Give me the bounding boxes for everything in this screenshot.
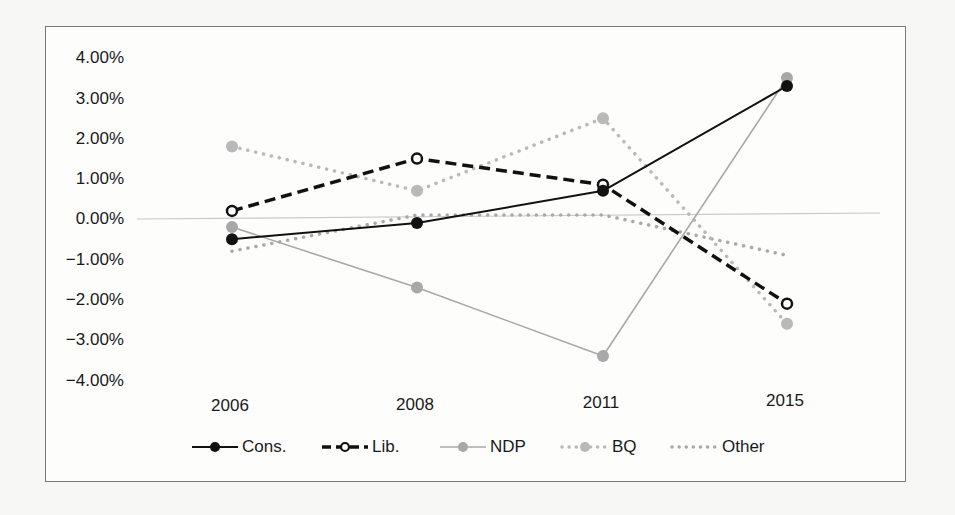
legend-marker (580, 442, 590, 452)
data-point-marker (411, 185, 423, 197)
x-axis: 2006200820112015 (211, 391, 804, 415)
data-point-marker (597, 350, 609, 362)
legend-item-bq: BQ (562, 437, 637, 456)
legend-label: Other (722, 437, 765, 456)
legend-label: BQ (612, 437, 637, 456)
y-tick-label: 2.00% (76, 129, 124, 148)
legend-marker (458, 442, 468, 452)
data-point-marker (781, 80, 793, 92)
y-tick-label: 4.00% (76, 48, 124, 67)
data-point-marker (227, 206, 237, 216)
x-tick-label: 2015 (766, 391, 804, 410)
y-tick-label: −1.00% (66, 250, 124, 269)
legend-item-cons: Cons. (192, 437, 286, 456)
data-point-marker (411, 282, 423, 294)
legend-label: Lib. (372, 437, 399, 456)
series-lib (227, 154, 792, 309)
y-tick-label: −3.00% (66, 330, 124, 349)
data-point-marker (412, 154, 422, 164)
legend-marker (341, 443, 349, 451)
x-tick-label: 2006 (211, 396, 249, 415)
data-point-marker (597, 112, 609, 124)
data-point-marker (781, 318, 793, 330)
data-point-marker (226, 140, 238, 152)
y-tick-label: −4.00% (66, 371, 124, 390)
legend-item-other: Other (672, 437, 765, 456)
y-tick-label: 0.00% (76, 209, 124, 228)
data-point-marker (226, 221, 238, 233)
data-point-marker (411, 217, 423, 229)
data-point-marker (226, 233, 238, 245)
legend-item-lib: Lib. (322, 437, 399, 456)
y-tick-label: −2.00% (66, 290, 124, 309)
y-axis: 4.00%3.00%2.00%1.00%0.00%−1.00%−2.00%−3.… (66, 48, 124, 389)
line-chart: 4.00%3.00%2.00%1.00%0.00%−1.00%−2.00%−3.… (0, 0, 955, 515)
legend-marker (210, 442, 220, 452)
series-cons (226, 80, 793, 245)
legend-label: NDP (490, 437, 526, 456)
zero-baseline (137, 213, 880, 219)
series-layer (226, 72, 793, 362)
series-ndp (226, 72, 793, 362)
legend-label: Cons. (242, 437, 286, 456)
legend-item-ndp: NDP (440, 437, 526, 456)
series-line (232, 118, 787, 323)
x-tick-label: 2008 (396, 395, 434, 414)
data-point-marker (782, 299, 792, 309)
x-tick-label: 2011 (583, 393, 620, 412)
series-bq (226, 112, 793, 330)
y-tick-label: 3.00% (76, 89, 124, 108)
legend: Cons.Lib.NDPBQOther (192, 437, 765, 456)
y-tick-label: 1.00% (76, 169, 124, 188)
data-point-marker (597, 185, 609, 197)
